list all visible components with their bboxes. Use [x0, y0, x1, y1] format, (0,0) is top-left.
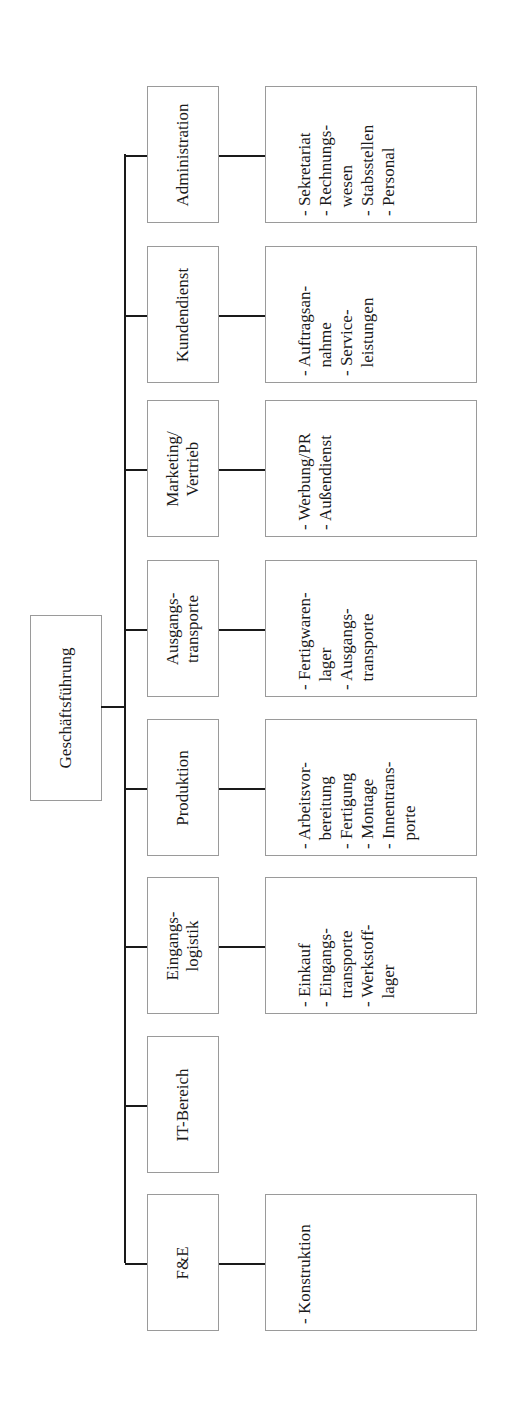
- branch-connector: [125, 315, 147, 317]
- subunit-list: - Einkauf- Eingangs- transporte- Werksto…: [294, 924, 399, 1007]
- department-label-line: Administration: [173, 103, 193, 206]
- subunit-item: - Werbung/PR: [294, 433, 315, 530]
- subunit-item: - Service-: [336, 286, 357, 376]
- subunit-box: - Einkauf- Eingangs- transporte- Werksto…: [265, 877, 477, 1014]
- subunit-item: - Eingangs-: [315, 924, 336, 1007]
- department-box: IT-Bereich: [147, 1036, 219, 1173]
- subunit-box: - Konstruktion: [265, 1194, 477, 1331]
- department-label-line: transporte: [183, 592, 203, 665]
- subunit-item: - Sekretariat: [294, 125, 315, 216]
- subunit-item: leistungen: [357, 286, 378, 376]
- subunit-item: bereitung: [315, 762, 336, 849]
- subunit-item: - Fertigung: [336, 762, 357, 849]
- department-label-line: logistik: [183, 911, 203, 980]
- subunit-item: lager: [315, 592, 336, 690]
- subunit-item: - Montage: [357, 762, 378, 849]
- department-label-line: F&E: [173, 1246, 193, 1279]
- department-label-line: Produktion: [173, 750, 193, 826]
- subunit-box: - Werbung/PR- Außendienst: [265, 400, 477, 537]
- subunit-item: - Einkauf: [294, 924, 315, 1007]
- subunit-list: - Konstruktion: [294, 1224, 315, 1324]
- subunit-item: - Werkstoff-: [357, 924, 378, 1007]
- subunit-item: - Ausgangs-: [336, 592, 357, 690]
- subunit-item: nahme: [315, 286, 336, 376]
- sub-connector: [219, 469, 265, 471]
- department-box: Ausgangs-transporte: [147, 560, 219, 697]
- department-label-line: Vertrieb: [183, 431, 203, 507]
- sub-connector: [219, 629, 265, 631]
- subunit-box: - Arbeitsvor- bereitung- Fertigung- Mont…: [265, 719, 477, 856]
- branch-connector: [125, 1263, 147, 1265]
- department-label-line: Kundendienst: [173, 267, 193, 361]
- subunit-list: - Auftragsan- nahme- Service- leistungen: [294, 286, 378, 376]
- sub-connector: [219, 155, 265, 157]
- subunit-item: - Rechnungs-: [315, 125, 336, 216]
- subunit-box: - Fertigwaren- lager- Ausgangs- transpor…: [265, 560, 477, 697]
- department-label-line: Eingangs-: [163, 911, 183, 980]
- department-label: F&E: [173, 1246, 193, 1279]
- department-label: Marketing/Vertrieb: [163, 431, 203, 507]
- subunit-item: - Stabsstellen: [357, 125, 378, 216]
- subunit-item: - Arbeitsvor-: [294, 762, 315, 849]
- branch-connector: [125, 788, 147, 790]
- subunit-item: wesen: [336, 125, 357, 216]
- subunit-box: - Auftragsan- nahme- Service- leistungen: [265, 246, 477, 383]
- subunit-item: - Außendienst: [315, 433, 336, 530]
- department-box: Administration: [147, 86, 219, 223]
- root-connector: [101, 706, 125, 708]
- subunit-item: - Fertigwaren-: [294, 592, 315, 690]
- department-label: Eingangs-logistik: [163, 911, 203, 980]
- sub-connector: [219, 1263, 265, 1265]
- branch-connector: [125, 1105, 147, 1107]
- subunit-item: lager: [378, 924, 399, 1007]
- subunit-item: transporte: [336, 924, 357, 1007]
- spine-line: [124, 154, 126, 1263]
- sub-connector: [219, 788, 265, 790]
- department-label-line: IT-Bereich: [173, 1068, 193, 1141]
- department-label: Ausgangs-transporte: [163, 592, 203, 665]
- department-box: F&E: [147, 1194, 219, 1331]
- subunit-item: transporte: [357, 592, 378, 690]
- department-box: Kundendienst: [147, 246, 219, 383]
- subunit-item: - Auftragsan-: [294, 286, 315, 376]
- branch-connector: [125, 946, 147, 948]
- subunit-list: - Sekretariat- Rechnungs- wesen- Stabsst…: [294, 125, 399, 216]
- subunit-item: porte: [399, 762, 420, 849]
- department-label: IT-Bereich: [173, 1068, 193, 1141]
- subunit-list: - Werbung/PR- Außendienst: [294, 433, 336, 530]
- sub-connector: [219, 315, 265, 317]
- subunit-item: - Konstruktion: [294, 1224, 315, 1324]
- department-label: Administration: [173, 103, 193, 206]
- department-box: Produktion: [147, 719, 219, 856]
- department-label: Kundendienst: [173, 267, 193, 361]
- subunit-item: - Personal: [378, 125, 399, 216]
- department-label-line: Ausgangs-: [163, 592, 183, 665]
- department-box: Marketing/Vertrieb: [147, 400, 219, 537]
- subunit-item: - Innentrans-: [378, 762, 399, 849]
- department-label-line: Marketing/: [163, 431, 183, 507]
- subunit-list: - Arbeitsvor- bereitung- Fertigung- Mont…: [294, 762, 420, 849]
- root-box-geschaeftsfuehrung: Geschäftsführung: [30, 615, 102, 801]
- subunit-box: - Sekretariat- Rechnungs- wesen- Stabsst…: [265, 86, 477, 223]
- branch-connector: [125, 469, 147, 471]
- sub-connector: [219, 946, 265, 948]
- branch-connector: [125, 629, 147, 631]
- subunit-list: - Fertigwaren- lager- Ausgangs- transpor…: [294, 592, 378, 690]
- root-label: Geschäftsführung: [56, 648, 76, 769]
- branch-connector: [125, 155, 147, 157]
- department-box: Eingangs-logistik: [147, 877, 219, 1014]
- department-label: Produktion: [173, 750, 193, 826]
